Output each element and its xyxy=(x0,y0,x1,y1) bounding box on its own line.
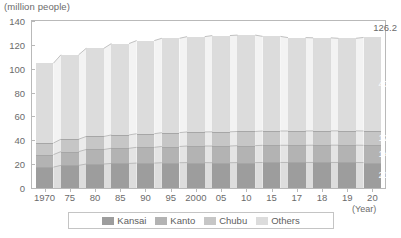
x-axis-labels: 19707580859095200005101517181920 xyxy=(32,192,385,206)
bar-segment-others xyxy=(338,38,356,131)
x-tick-label: 20 xyxy=(367,192,378,203)
bar-column xyxy=(263,21,281,188)
y-tick-label: 80 xyxy=(14,88,25,99)
bar-segment-chubu xyxy=(86,136,104,149)
bar-segment-chubu xyxy=(162,133,180,147)
x-tick-label: 15 xyxy=(266,192,277,203)
legend-label: Chubu xyxy=(219,215,247,226)
bar-segment-kanto xyxy=(137,147,155,163)
bar-column xyxy=(36,21,54,188)
bar-segment-others xyxy=(288,38,306,131)
bar-segment-kanto xyxy=(86,149,104,164)
bar-stack xyxy=(288,38,306,188)
bar-column xyxy=(288,21,306,188)
population-stacked-bar-chart: (million people) 020406080100120140 1970… xyxy=(0,0,401,238)
bar-segment-kansai xyxy=(137,163,155,188)
bar-segment-others xyxy=(61,55,79,139)
x-tick-label: 80 xyxy=(90,192,101,203)
bar-stack xyxy=(237,35,255,188)
x-tick-label: 2000 xyxy=(185,192,206,203)
bar-segment-chubu xyxy=(237,131,255,145)
bar-stack xyxy=(86,48,104,188)
legend-item-kanto[interactable]: Kanto xyxy=(155,215,195,226)
bar-segment-kanto xyxy=(187,146,205,163)
x-axis-unit-label: (Year) xyxy=(352,204,376,214)
bar-segment-kansai xyxy=(288,162,306,188)
bar-segment-kansai xyxy=(86,164,104,188)
bar-segment-kanto xyxy=(263,145,281,162)
bars-layer xyxy=(32,21,385,188)
bar-segment-others xyxy=(263,36,281,131)
bar-stack xyxy=(263,36,281,188)
end-label-kansai: 21.3 xyxy=(379,169,398,180)
bar-segment-kanto xyxy=(288,145,306,162)
y-tick-label: 60 xyxy=(14,111,25,122)
y-tick-label: 0 xyxy=(20,183,25,194)
bar-segment-kanto xyxy=(111,148,129,163)
bar-segment-kanto xyxy=(313,145,331,162)
legend-item-chubu[interactable]: Chubu xyxy=(204,215,247,226)
bar-segment-kansai xyxy=(313,162,331,188)
bar-segment-others xyxy=(86,48,104,136)
bar-segment-kansai xyxy=(61,165,79,188)
x-tick-label: 90 xyxy=(140,192,151,203)
bar-column xyxy=(338,21,356,188)
bar-segment-kanto xyxy=(237,146,255,163)
bar-column xyxy=(212,21,230,188)
bar-segment-kansai xyxy=(212,163,230,188)
bar-segment-kansai xyxy=(237,163,255,188)
end-label-kanto: 14.5 xyxy=(379,148,398,159)
x-tick-label: 19 xyxy=(342,192,353,203)
bar-column xyxy=(237,21,255,188)
bar-stack xyxy=(313,38,331,188)
x-tick-label: 85 xyxy=(115,192,126,203)
y-tick-label: 40 xyxy=(14,135,25,146)
x-tick-label: 05 xyxy=(216,192,227,203)
bar-segment-chubu xyxy=(111,135,129,148)
bar-column xyxy=(86,21,104,188)
bar-segment-others xyxy=(237,35,255,131)
bar-column xyxy=(162,21,180,188)
y-tick-label: 100 xyxy=(9,64,25,75)
bar-segment-kanto xyxy=(212,146,230,163)
legend-item-others[interactable]: Others xyxy=(256,215,300,226)
bar-segment-kansai xyxy=(263,162,281,188)
y-tick-label: 140 xyxy=(9,16,25,27)
bar-segment-others xyxy=(137,41,155,134)
bar-segment-kansai xyxy=(111,163,129,188)
legend-swatch-icon xyxy=(204,217,216,225)
bar-segment-kanto xyxy=(162,147,180,163)
bar-segment-chubu xyxy=(212,132,230,146)
bar-segment-others xyxy=(187,37,205,132)
bar-stack xyxy=(364,37,382,188)
y-axis: 020406080100120140 xyxy=(0,14,29,195)
legend-label: Others xyxy=(271,215,300,226)
legend-swatch-icon xyxy=(256,217,268,225)
bar-segment-others xyxy=(162,38,180,132)
bar-segment-kansai xyxy=(338,162,356,188)
bar-stack xyxy=(137,41,155,188)
bar-segment-others xyxy=(36,63,54,143)
end-label-others: 43.4 xyxy=(379,78,398,89)
chart-legend: KansaiKantoChubuOthers xyxy=(68,212,334,229)
bar-segment-kansai xyxy=(162,163,180,188)
end-label-chubu: 12.0 xyxy=(379,132,398,143)
bar-segment-kanto xyxy=(61,152,79,166)
bar-stack xyxy=(61,55,79,188)
y-axis-unit-title: (million people) xyxy=(4,1,70,12)
legend-item-kansai[interactable]: Kansai xyxy=(102,215,146,226)
bar-column xyxy=(187,21,205,188)
bar-stack xyxy=(162,38,180,188)
legend-swatch-icon xyxy=(102,217,114,225)
bar-column xyxy=(61,21,79,188)
bar-segment-chubu xyxy=(36,143,54,155)
bar-stack xyxy=(187,37,205,188)
bar-stack xyxy=(338,38,356,188)
bar-stack xyxy=(111,44,129,188)
x-tick-label: 17 xyxy=(291,192,302,203)
bar-segment-chubu xyxy=(61,139,79,151)
bar-column xyxy=(364,21,382,188)
legend-label: Kanto xyxy=(170,215,195,226)
bar-column xyxy=(313,21,331,188)
bar-segment-chubu xyxy=(288,131,306,145)
